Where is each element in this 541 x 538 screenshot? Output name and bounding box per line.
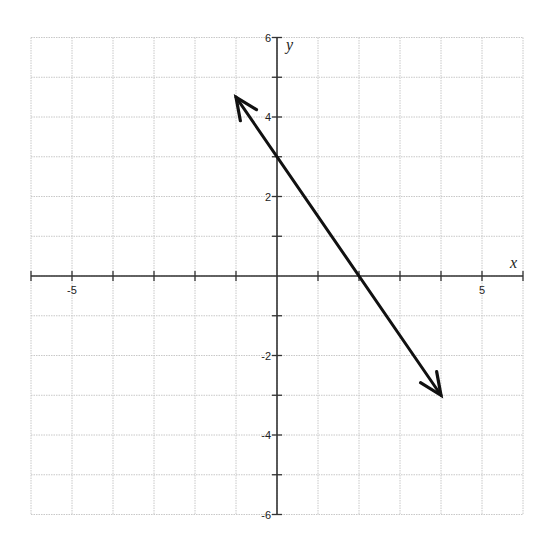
y-tick-label: -6 <box>261 509 271 521</box>
x-axis-label: x <box>509 254 517 271</box>
y-tick-label: 2 <box>265 191 271 203</box>
y-tick-label: -4 <box>261 429 271 441</box>
axes <box>31 38 523 515</box>
y-tick-label: -2 <box>261 350 271 362</box>
graph-svg: -55642-2-4-6 x y <box>0 0 541 538</box>
y-axis-label: y <box>284 36 294 54</box>
arrowhead-end-icon <box>421 372 441 396</box>
x-tick-label: -5 <box>67 284 77 296</box>
x-tick-label: 5 <box>479 284 485 296</box>
y-tick-label: 4 <box>265 111 271 123</box>
coordinate-plane: -55642-2-4-6 x y <box>0 0 541 538</box>
y-tick-label: 6 <box>265 32 271 44</box>
